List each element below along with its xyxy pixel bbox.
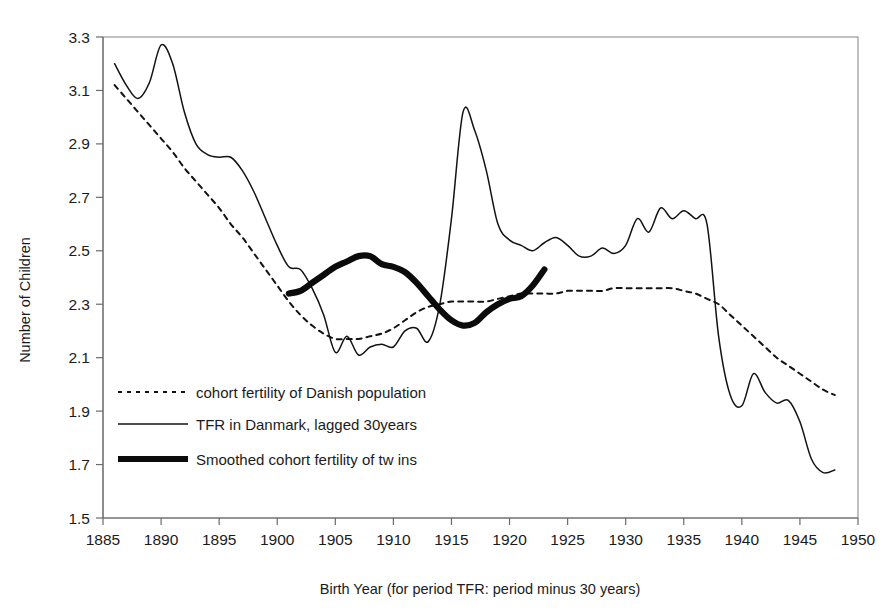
x-tick-label: 1930 — [608, 531, 643, 548]
y-tick-label: 1.7 — [68, 456, 90, 473]
y-axis-title: Number of Children — [17, 237, 33, 363]
x-tick-label: 1935 — [667, 531, 701, 548]
x-tick-label: 1885 — [86, 531, 120, 548]
y-tick-label: 3.1 — [68, 82, 90, 99]
x-axis-title-group: Birth Year (for period TFR: period minus… — [320, 581, 641, 597]
x-tick-label: 1950 — [841, 531, 876, 548]
y-tick-label: 2.5 — [68, 242, 90, 259]
x-tick-label: 1900 — [260, 531, 295, 548]
y-tick-label: 2.3 — [68, 296, 90, 313]
legend-label: Smoothed cohort fertility of tw ins — [196, 451, 417, 468]
y-tick-label: 2.7 — [68, 189, 90, 206]
x-axis-title: Birth Year (for period TFR: period minus… — [320, 581, 641, 597]
chart-container: 1.51.71.92.12.32.52.72.93.13.3 188518901… — [0, 0, 888, 612]
x-tick-label: 1905 — [318, 531, 352, 548]
x-tick-label: 1925 — [550, 531, 584, 548]
y-tick-label: 2.9 — [68, 135, 90, 152]
x-tick-label: 1940 — [725, 531, 760, 548]
x-tick-label: 1945 — [783, 531, 817, 548]
chart-background — [0, 0, 888, 612]
x-tick-label: 1920 — [492, 531, 527, 548]
y-tick-label: 1.9 — [68, 403, 90, 420]
fertility-line-chart: 1.51.71.92.12.32.52.72.93.13.3 188518901… — [0, 0, 888, 612]
y-axis-title-group: Number of Children — [17, 237, 33, 363]
x-tick-label: 1890 — [144, 531, 179, 548]
x-tick-label: 1910 — [376, 531, 411, 548]
x-tick-label: 1895 — [202, 531, 236, 548]
legend-label: TFR in Danmark, lagged 30years — [196, 416, 417, 433]
legend-label: cohort fertility of Danish population — [196, 384, 426, 401]
y-tick-label: 1.5 — [68, 510, 90, 527]
y-tick-label: 3.3 — [68, 29, 90, 46]
x-tick-label: 1915 — [434, 531, 468, 548]
y-tick-label: 2.1 — [68, 349, 90, 366]
